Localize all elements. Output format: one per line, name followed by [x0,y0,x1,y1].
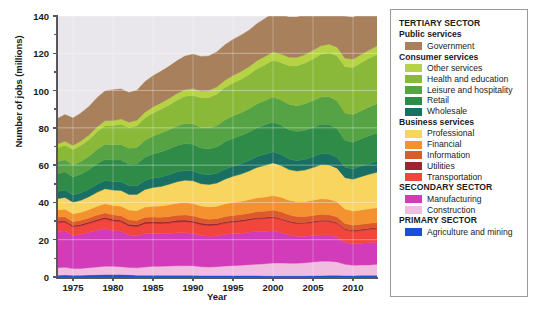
y-tick-label: 120 [33,48,49,59]
x-tick-mark [112,277,114,281]
y-tick-mark [53,164,57,166]
y-tick-label: 40 [38,197,49,208]
legend-item[interactable]: Construction [405,205,521,216]
legend-item[interactable]: Leisure and hospitality [405,85,521,96]
x-tick-mark [272,277,274,281]
legend-item-label: Financial [427,139,461,150]
chart-figure: 020406080100120140 197519801985199019952… [0,0,536,322]
legend-swatch [405,86,422,94]
legend-swatch [405,130,422,138]
legend-item-label: Agriculture and mining [427,227,513,238]
y-tick-mark [54,183,57,185]
legend-item-label: Government [427,41,474,52]
legend-item-label: Leisure and hospitality [427,85,513,96]
legend-swatch [405,162,422,170]
y-tick-mark [53,53,57,55]
x-tick-mark [152,277,154,281]
legend-item-label: Transportation [427,172,482,183]
legend-swatch [405,108,422,116]
y-tick-mark [53,202,57,204]
y-tick-label: 140 [33,11,49,22]
legend-item-label: Retail [427,95,449,106]
legend: TERTIARY SECTORPublic servicesGovernment… [390,9,528,297]
legend-item[interactable]: Professional [405,128,521,139]
y-tick-mark [54,34,57,36]
x-axis-title: Year [57,291,377,302]
y-tick-mark [53,127,57,129]
legend-item[interactable]: Other services [405,63,521,74]
legend-item[interactable]: Agriculture and mining [405,227,521,238]
y-tick-label: 80 [38,122,49,133]
y-axis-title: Number of jobs (millions) [13,22,24,162]
y-tick-label: 100 [33,85,49,96]
legend-swatch [405,75,422,83]
y-tick-mark [54,258,57,260]
legend-item[interactable]: Retail [405,95,521,106]
legend-swatch [405,228,422,236]
legend-swatch [405,141,422,149]
legend-swatch [405,206,422,214]
y-axis-ticks: 020406080100120140 [0,0,57,322]
legend-item-label: Wholesale [427,106,467,117]
legend-item[interactable]: Wholesale [405,106,521,117]
y-tick-mark [54,108,57,110]
legend-subgroup-title: Consumer services [399,52,521,63]
legend-item-label: Other services [427,63,482,74]
legend-swatch [405,42,422,50]
legend-item-label: Professional [427,128,474,139]
x-tick-mark [192,277,194,281]
legend-subgroup-title: Public services [399,29,521,40]
y-tick-mark [54,220,57,222]
legend-swatch [405,173,422,181]
legend-item-label: Information [427,150,470,161]
legend-swatch [405,151,422,159]
legend-item[interactable]: Information [405,150,521,161]
x-tick-mark [352,277,354,281]
legend-item[interactable]: Government [405,41,521,52]
legend-item[interactable]: Health and education [405,74,521,85]
legend-swatch [405,97,422,105]
legend-item-label: Utilities [427,161,455,172]
y-tick-mark [53,90,57,92]
y-tick-mark [54,71,57,73]
legend-sector-title: PRIMARY SECTOR [399,215,521,226]
stacked-area-plot [57,16,377,277]
x-tick-mark [312,277,314,281]
x-tick-mark [232,277,234,281]
y-tick-mark [54,146,57,148]
y-tick-label: 60 [38,160,49,171]
legend-sector-title: SECONDARY SECTOR [399,182,521,193]
x-tick-mark [72,277,74,281]
legend-item[interactable]: Financial [405,139,521,150]
legend-subgroup-title: Business services [399,117,521,128]
legend-sector-title: TERTIARY SECTOR [399,18,521,29]
legend-item-label: Manufacturing [427,194,481,205]
legend-item-label: Construction [427,205,475,216]
legend-item[interactable]: Transportation [405,172,521,183]
legend-item[interactable]: Utilities [405,161,521,172]
y-tick-mark [53,239,57,241]
legend-swatch [405,195,422,203]
legend-swatch [405,64,422,72]
legend-item[interactable]: Manufacturing [405,194,521,205]
y-tick-mark [53,15,57,17]
legend-item-label: Health and education [427,74,508,85]
y-tick-label: 20 [38,234,49,245]
plot-svg [57,16,377,277]
